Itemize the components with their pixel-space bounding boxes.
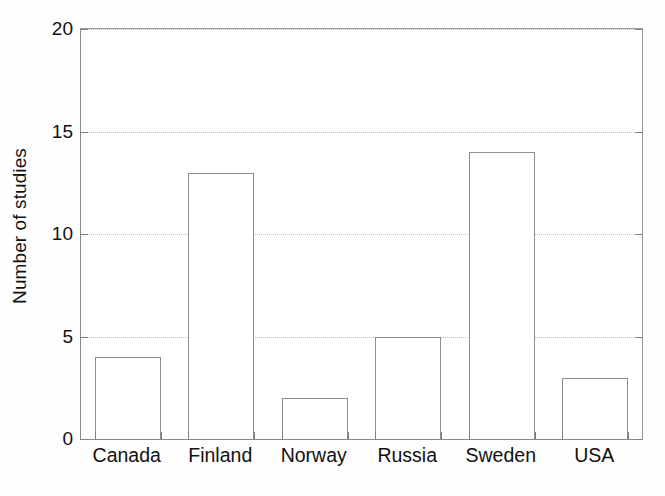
y-tick-mark-10 <box>81 234 88 235</box>
bar-canada <box>95 357 161 439</box>
x-tick-mark-finland-right <box>254 432 255 439</box>
x-tick-mark-usa-left <box>562 432 563 439</box>
x-tick-mark-sweden-right <box>535 432 536 439</box>
x-tick-label-usa: USA <box>574 446 614 466</box>
gridline-y-5 <box>81 337 642 338</box>
x-tick-mark-usa-right <box>628 432 629 439</box>
y-tick-label-5: 5 <box>33 326 73 345</box>
bar-usa <box>562 378 628 440</box>
gridline-y-15 <box>81 132 642 133</box>
y-tick-mark-15 <box>81 132 88 133</box>
x-tick-mark-russia-left <box>375 432 376 439</box>
x-tick-label-finland: Finland <box>188 446 252 466</box>
y-tick-label-15: 15 <box>33 121 73 140</box>
x-tick-mark-norway-right <box>348 432 349 439</box>
plot-area <box>80 28 643 440</box>
y-tick-label-0: 0 <box>33 429 73 448</box>
x-tick-mark-canada-left <box>95 432 96 439</box>
y-tick-mark-15 <box>635 132 642 133</box>
x-tick-mark-russia-right <box>441 432 442 439</box>
y-tick-mark-0 <box>635 439 642 440</box>
x-tick-label-russia: Russia <box>377 446 437 466</box>
bar-russia <box>375 337 441 440</box>
x-tick-mark-canada-right <box>161 432 162 439</box>
bar-norway <box>282 398 348 439</box>
x-tick-label-sweden: Sweden <box>466 446 536 466</box>
y-tick-mark-10 <box>635 234 642 235</box>
y-tick-mark-0 <box>81 439 88 440</box>
bar-finland <box>188 173 254 440</box>
x-axis-tick-labels: CanadaFinlandNorwayRussiaSwedenUSA <box>80 446 643 480</box>
y-tick-label-10: 10 <box>33 224 73 243</box>
x-tick-mark-norway-left <box>282 432 283 439</box>
x-tick-mark-sweden-left <box>469 432 470 439</box>
gridline-y-20 <box>81 29 642 30</box>
y-tick-label-20: 20 <box>33 19 73 38</box>
x-tick-mark-finland-left <box>188 432 189 439</box>
y-tick-mark-20 <box>81 29 88 30</box>
bar-sweden <box>469 152 535 439</box>
y-tick-mark-5 <box>81 337 88 338</box>
y-tick-mark-5 <box>635 337 642 338</box>
x-tick-label-canada: Canada <box>93 446 161 466</box>
y-axis-label: Number of studies <box>9 148 31 304</box>
gridline-y-10 <box>81 234 642 235</box>
bar-chart-figure: Number of studies 05101520 CanadaFinland… <box>0 0 665 496</box>
y-tick-mark-20 <box>635 29 642 30</box>
y-axis-tick-labels: 05101520 <box>31 0 73 496</box>
x-tick-label-norway: Norway <box>281 446 347 466</box>
